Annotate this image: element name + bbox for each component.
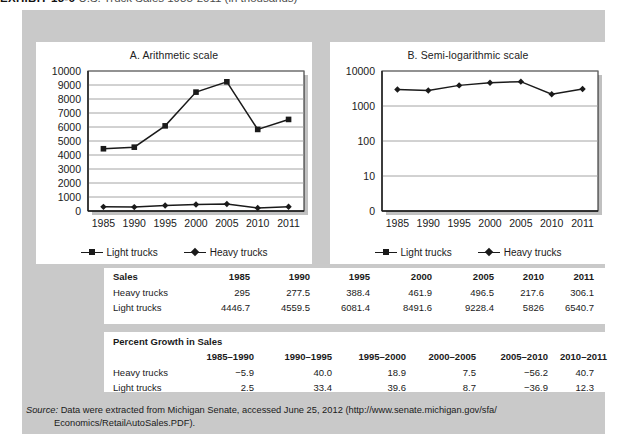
svg-text:10: 10 xyxy=(363,170,375,182)
source-note: Source: Data were extracted from Michiga… xyxy=(26,404,611,430)
table-cell: −36.9 xyxy=(488,380,560,395)
table-column-header: 2000–2005 xyxy=(418,348,488,365)
table-cell: 295 xyxy=(202,285,262,300)
chart-b-svg: 0101001000100001985199019952000200520102… xyxy=(330,61,606,251)
diamond-marker-icon xyxy=(184,247,206,257)
table-cell: −56.2 xyxy=(488,365,560,380)
svg-text:1990: 1990 xyxy=(123,217,147,229)
svg-text:2000: 2000 xyxy=(58,177,82,189)
svg-text:1995: 1995 xyxy=(447,217,471,229)
diamond-marker-icon xyxy=(478,247,500,257)
table-cell: 5826 xyxy=(506,300,556,315)
legend-label-heavy-trucks: Heavy trucks xyxy=(210,247,268,258)
table-row: Light trucks2.533.439.68.7−36.912.3 xyxy=(104,380,606,395)
svg-text:1000: 1000 xyxy=(58,191,82,203)
svg-text:1000: 1000 xyxy=(352,100,376,112)
table-column-header: 2000 xyxy=(382,268,444,285)
table-cell: 12.3 xyxy=(560,380,606,395)
svg-text:2005: 2005 xyxy=(215,217,239,229)
source-word: Source: xyxy=(26,405,58,415)
legend-label-light-trucks: Light trucks xyxy=(107,247,158,258)
table-column-header: 2010 xyxy=(506,268,556,285)
table-cell: 7.5 xyxy=(418,365,488,380)
table-column-header: 2005 xyxy=(444,268,506,285)
sales-table-card: Sales1985199019952000200520102011Heavy t… xyxy=(104,268,606,324)
table-column-header: 1990–1995 xyxy=(266,348,344,365)
chart-a-legend: Light trucks Heavy trucks xyxy=(36,244,312,260)
svg-text:1990: 1990 xyxy=(417,217,441,229)
table-corner-label: Sales xyxy=(104,268,202,285)
growth-table: 1985–19901990–19951995–20002000–20052005… xyxy=(104,348,606,395)
table-cell: 40.0 xyxy=(266,365,344,380)
source-line-2: Economics/RetailAutoSales.PDF). xyxy=(26,417,611,430)
svg-text:5000: 5000 xyxy=(58,135,82,147)
table-cell: 306.1 xyxy=(556,285,606,300)
table-cell: 217.6 xyxy=(506,285,556,300)
source-line-1: Data were extracted from Michigan Senate… xyxy=(58,405,497,415)
svg-text:2000: 2000 xyxy=(478,217,502,229)
chart-card-semilog: B. Semi-logarithmic scale 01010010001000… xyxy=(330,42,606,264)
chart-b-legend: Light trucks Heavy trucks xyxy=(330,244,606,260)
svg-text:0: 0 xyxy=(369,205,375,217)
table-cell: 4559.5 xyxy=(262,300,322,315)
svg-text:10000: 10000 xyxy=(346,65,375,77)
svg-text:9000: 9000 xyxy=(58,79,82,91)
table-corner-label xyxy=(104,348,188,365)
legend-item-light-trucks: Light trucks xyxy=(375,247,452,258)
svg-text:100: 100 xyxy=(357,135,375,147)
chart-a-svg: 0100020003000400050006000700080009000100… xyxy=(36,61,312,251)
exhibit-number: EXHIBIT 13-6 xyxy=(0,0,75,4)
svg-text:7000: 7000 xyxy=(58,107,82,119)
table-cell: 33.4 xyxy=(266,380,344,395)
table-column-header: 1985–1990 xyxy=(188,348,266,365)
legend-item-heavy-trucks: Heavy trucks xyxy=(184,247,268,258)
chart-b-title: B. Semi-logarithmic scale xyxy=(330,42,606,61)
legend-label-heavy-trucks: Heavy trucks xyxy=(504,247,562,258)
table-cell: 461.9 xyxy=(382,285,444,300)
exhibit-caption: U.S. Truck Sales 1985-2011 (in thousands… xyxy=(78,0,297,4)
table-row-label: Heavy trucks xyxy=(104,365,188,380)
svg-text:2005: 2005 xyxy=(509,217,533,229)
table-cell: 4446.7 xyxy=(202,300,262,315)
svg-text:2000: 2000 xyxy=(184,217,208,229)
svg-text:2011: 2011 xyxy=(571,217,594,229)
chart-b-plot: 0101001000100001985199019952000200520102… xyxy=(330,61,606,251)
svg-text:1985: 1985 xyxy=(92,217,116,229)
table-cell: 277.5 xyxy=(262,285,322,300)
table-column-header: 1985 xyxy=(202,268,262,285)
table-column-header: 2011 xyxy=(556,268,606,285)
svg-text:4000: 4000 xyxy=(58,149,82,161)
table-row-label: Heavy trucks xyxy=(104,285,202,300)
svg-text:10000: 10000 xyxy=(52,65,81,77)
legend-label-light-trucks: Light trucks xyxy=(401,247,452,258)
growth-table-title: Percent Growth in Sales xyxy=(104,332,606,348)
table-cell: 8491.6 xyxy=(382,300,444,315)
svg-text:1985: 1985 xyxy=(386,217,410,229)
table-cell: 8.7 xyxy=(418,380,488,395)
table-cell: 2.5 xyxy=(188,380,266,395)
table-cell: 9228.4 xyxy=(444,300,506,315)
svg-text:1995: 1995 xyxy=(153,217,177,229)
table-row-label: Light trucks xyxy=(104,300,202,315)
square-marker-icon xyxy=(81,247,103,257)
table-cell: 40.7 xyxy=(560,365,606,380)
table-row: Light trucks4446.74559.56081.48491.69228… xyxy=(104,300,606,315)
svg-text:6000: 6000 xyxy=(58,121,82,133)
chart-a-title: A. Arithmetic scale xyxy=(36,42,312,61)
legend-item-light-trucks: Light trucks xyxy=(81,247,158,258)
table-cell: 39.6 xyxy=(344,380,418,395)
table-cell: −5.9 xyxy=(188,365,266,380)
table-header-row: 1985–19901990–19951995–20002000–20052005… xyxy=(104,348,606,365)
table-cell: 496.5 xyxy=(444,285,506,300)
chart-a-plot: 0100020003000400050006000700080009000100… xyxy=(36,61,312,251)
table-cell: 6540.7 xyxy=(556,300,606,315)
svg-text:2010: 2010 xyxy=(246,217,270,229)
table-cell: 388.4 xyxy=(322,285,382,300)
square-marker-icon xyxy=(375,247,397,257)
table-row-label: Light trucks xyxy=(104,380,188,395)
svg-text:0: 0 xyxy=(75,205,81,217)
table-cell: 6081.4 xyxy=(322,300,382,315)
table-header-row: Sales1985199019952000200520102011 xyxy=(104,268,606,285)
table-row: Heavy trucks295277.5388.4461.9496.5217.6… xyxy=(104,285,606,300)
table-column-header: 2010–2011 xyxy=(560,348,606,365)
